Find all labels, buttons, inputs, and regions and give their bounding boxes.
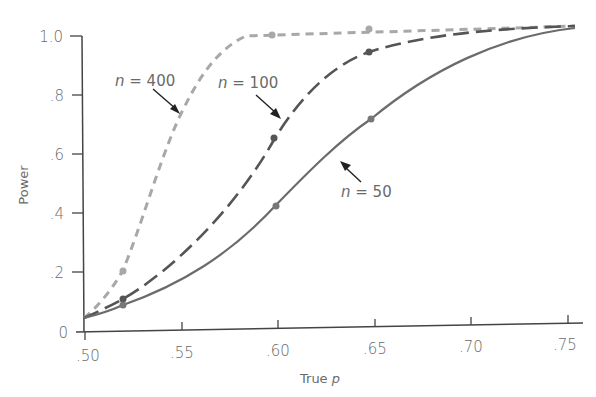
x-tick-labels: .50 .55 .60 .65 .70 .75 (76, 336, 577, 365)
svg-text:n = 100: n = 100 (218, 74, 278, 92)
svg-text:True p: True p (299, 371, 340, 386)
series-n400-points (120, 26, 373, 275)
svg-text:.65: .65 (363, 340, 387, 358)
series-n50-points (120, 116, 375, 309)
svg-text:.55: .55 (170, 344, 194, 362)
y-axis-title: Power (16, 165, 31, 205)
annotation-n400: n = 400 (115, 72, 180, 114)
y-tick-labels: 1.0 .8 .6 .4 .2 0 (39, 28, 68, 342)
annotation-n100: n = 100 (218, 74, 281, 119)
svg-text:.50: .50 (76, 347, 100, 365)
svg-text:.70: .70 (459, 338, 483, 356)
annotation-n50: n = 50 (340, 161, 392, 201)
x-axis-title-text: True (299, 371, 332, 386)
svg-text:.8: .8 (50, 87, 64, 105)
series-n100-curve (84, 26, 575, 318)
x-axis (76, 323, 583, 332)
x-axis-title: True p (299, 371, 340, 386)
svg-text:n = 50: n = 50 (341, 183, 392, 201)
x-axis-title-var: p (331, 371, 340, 386)
y-axis (82, 36, 84, 332)
svg-text:.2: .2 (50, 264, 64, 282)
svg-text:.4: .4 (50, 205, 64, 223)
svg-text:.6: .6 (50, 146, 64, 164)
svg-text:.75: .75 (553, 336, 577, 354)
svg-text:1.0: 1.0 (39, 28, 63, 46)
svg-text:0: 0 (58, 324, 68, 342)
series-n400-curve (84, 26, 575, 318)
svg-text:.60: .60 (266, 342, 290, 360)
svg-text:n = 400: n = 400 (115, 72, 175, 90)
arrow-head-icon (340, 161, 351, 171)
power-curve-chart: 1.0 .8 .6 .4 .2 0 .50 .55 .60 .65 .70 .7… (0, 0, 596, 397)
